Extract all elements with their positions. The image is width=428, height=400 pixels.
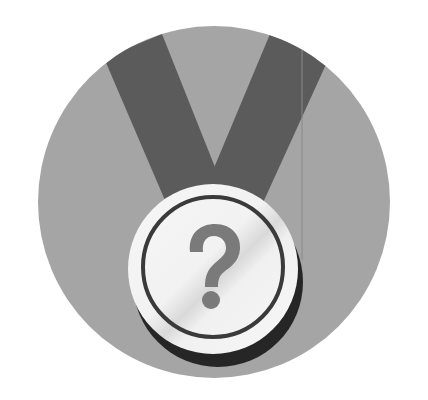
medal-badge-icon [0,0,428,400]
